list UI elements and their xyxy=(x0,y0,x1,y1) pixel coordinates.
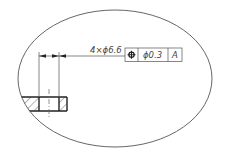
part-section xyxy=(10,97,67,111)
hole-callout: 4×ϕ6.6 xyxy=(90,45,122,55)
tolerance-value: ϕ0.3 xyxy=(143,50,162,60)
technical-drawing: 4×ϕ6.6 ϕ0.3 A xyxy=(0,0,229,159)
datum-reference: A xyxy=(171,50,178,60)
detail-view-boundary xyxy=(18,10,212,147)
arrow-left-icon xyxy=(39,54,46,57)
arrow-right-icon xyxy=(59,54,66,57)
arrow-mid-icon xyxy=(52,54,59,57)
feature-control-frame: ϕ0.3 A xyxy=(125,48,182,62)
